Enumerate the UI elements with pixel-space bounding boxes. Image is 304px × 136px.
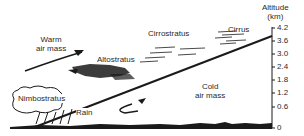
cold-label-line1: Cold — [195, 82, 225, 91]
diagram-graphics — [0, 0, 304, 136]
ground — [10, 122, 272, 129]
warm-label-line2: air mass — [36, 44, 66, 53]
tick-3-0: 3.0 — [277, 50, 288, 58]
warm-air-arrowhead — [74, 50, 84, 56]
tick-4-2: 4.2 — [277, 24, 288, 32]
altostratus-cloud — [68, 64, 135, 80]
cirrus-label: Cirrus — [228, 25, 249, 34]
axis-title-line2: (km) — [262, 12, 289, 21]
tick-2-4: 2.4 — [277, 63, 288, 71]
nimbostratus-label: Nimbostratus — [18, 94, 65, 103]
tick-0-6: 0.6 — [277, 103, 288, 111]
altitude-axis-title: Altitude (km) — [262, 3, 289, 21]
cold-air-arrowhead — [138, 98, 146, 104]
axis-title-line1: Altitude — [262, 3, 289, 12]
cirrostratus-cloud — [140, 47, 205, 62]
warm-air-mass-label: Warm air mass — [36, 35, 66, 53]
cold-air-mass-label: Cold air mass — [195, 82, 225, 100]
cold-label-line2: air mass — [195, 91, 225, 100]
tick-1-8: 1.8 — [277, 76, 288, 84]
warm-label-line1: Warm — [36, 35, 66, 44]
tick-0: 0 — [277, 124, 281, 132]
tick-1-2: 1.2 — [277, 89, 288, 97]
warm-front-diagram: Warm air mass Altostratus Cirrostratus C… — [0, 0, 304, 136]
rain-label: Rain — [76, 108, 92, 117]
tick-3-6: 3.6 — [277, 37, 288, 45]
altostratus-label: Altostratus — [97, 55, 135, 64]
cirrostratus-label: Cirrostratus — [148, 29, 189, 38]
cold-air-arrow — [120, 104, 138, 113]
